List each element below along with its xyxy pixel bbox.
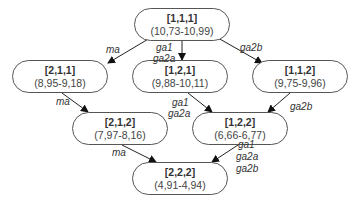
edge-label: ga2a: [236, 151, 258, 163]
edge-label: ma: [106, 44, 120, 56]
edge-label: ga2b: [240, 42, 262, 54]
state-node-n211: [2,1,1] (8,95-9,18): [12, 60, 108, 93]
state-node-n222: [2,2,2] (4,91-4,94): [132, 162, 228, 195]
node-range: (7,97-8,16): [73, 129, 167, 142]
node-id: [1,1,2]: [253, 64, 347, 77]
node-range: (9,88-10,11): [133, 77, 227, 90]
edge-arrow: [268, 93, 290, 112]
edge-label: ma: [112, 147, 126, 159]
state-node-n212: [2,1,2] (7,97-8,16): [72, 112, 168, 145]
edge-label: ga2a: [168, 108, 190, 120]
node-id: [2,2,2]: [133, 166, 227, 179]
state-node-n121: [1,2,1] (9,88-10,11): [132, 60, 228, 93]
edge-label: ga2b: [236, 163, 258, 175]
edge-arrow: [212, 145, 238, 162]
edge-arrow: [122, 145, 156, 162]
node-range: (9,75-9,96): [253, 77, 347, 90]
node-id: [1,2,1]: [133, 64, 227, 77]
node-range: (10,73-10,99): [135, 25, 229, 38]
node-id: [2,1,1]: [13, 64, 107, 77]
state-node-n111: [1,1,1] (10,73-10,99): [134, 8, 230, 41]
edge-label: ma: [56, 96, 70, 108]
state-node-n112: [1,1,2] (9,75-9,96): [252, 60, 348, 93]
edge-label: ga1: [238, 139, 255, 151]
edge-arrow: [188, 93, 212, 112]
edge-label: ga2b: [290, 101, 312, 113]
node-range: (8,95-9,18): [13, 77, 107, 90]
node-range: (4,91-4,94): [133, 179, 227, 192]
edge-label: ga2a: [153, 53, 175, 65]
node-id: [1,1,1]: [135, 12, 229, 25]
node-id: [2,1,2]: [73, 116, 167, 129]
node-id: [1,2,2]: [193, 116, 287, 129]
